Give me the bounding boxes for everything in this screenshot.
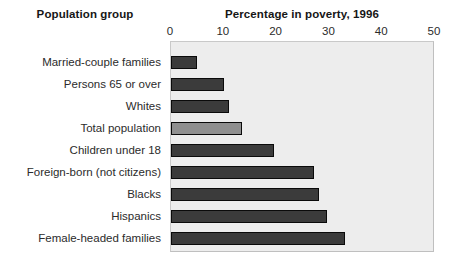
category-label: Hispanics — [111, 205, 161, 227]
chart-title: Percentage in poverty, 1996 — [170, 8, 434, 20]
bars-container — [171, 42, 433, 251]
bar — [171, 56, 197, 69]
bar — [171, 122, 242, 135]
bar — [171, 144, 274, 157]
category-label: Children under 18 — [70, 139, 161, 161]
x-axis-tick-labels: 01020304050 — [0, 25, 453, 41]
bar — [171, 166, 314, 179]
category-label: Blacks — [127, 183, 161, 205]
x-tick-label: 40 — [366, 25, 396, 37]
bar — [171, 78, 224, 91]
bar — [171, 232, 345, 245]
x-tick-label: 50 — [419, 25, 449, 37]
x-tick-label: 10 — [208, 25, 238, 37]
population-group-heading: Population group — [0, 8, 170, 20]
category-label: Female-headed families — [38, 227, 161, 249]
x-tick-label: 20 — [261, 25, 291, 37]
category-label: Persons 65 or over — [64, 73, 161, 95]
category-label: Foreign-born (not citizens) — [27, 161, 161, 183]
plot-area — [170, 41, 434, 252]
bar — [171, 210, 327, 223]
category-label: Whites — [126, 95, 161, 117]
bar — [171, 100, 229, 113]
x-tick-label: 0 — [155, 25, 185, 37]
category-label: Married-couple families — [42, 51, 161, 73]
x-tick-label: 30 — [313, 25, 343, 37]
poverty-bar-chart: Population group Percentage in poverty, … — [0, 0, 453, 271]
bar — [171, 188, 319, 201]
category-label: Total population — [80, 117, 161, 139]
